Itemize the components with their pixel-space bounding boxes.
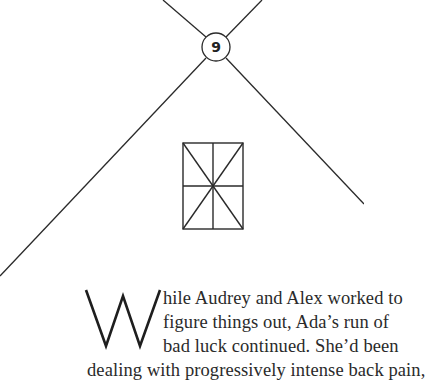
- body-text-line-3: bad luck continued. She’d been: [163, 336, 399, 357]
- upper-right-line: [226, 0, 262, 37]
- chapter-number: 9: [202, 33, 230, 61]
- drop-cap-w: [84, 286, 162, 350]
- body-text-line-4: dealing with progressively intense back …: [87, 360, 425, 380]
- roof-right-line: [226, 58, 364, 204]
- body-text-line-2: figure things out, Ada’s run of: [163, 312, 389, 333]
- window-icon: [183, 143, 243, 229]
- upper-left-line: [163, 0, 206, 37]
- roof-left-line: [0, 58, 206, 276]
- body-text-line-1: hile Audrey and Alex worked to: [163, 288, 403, 309]
